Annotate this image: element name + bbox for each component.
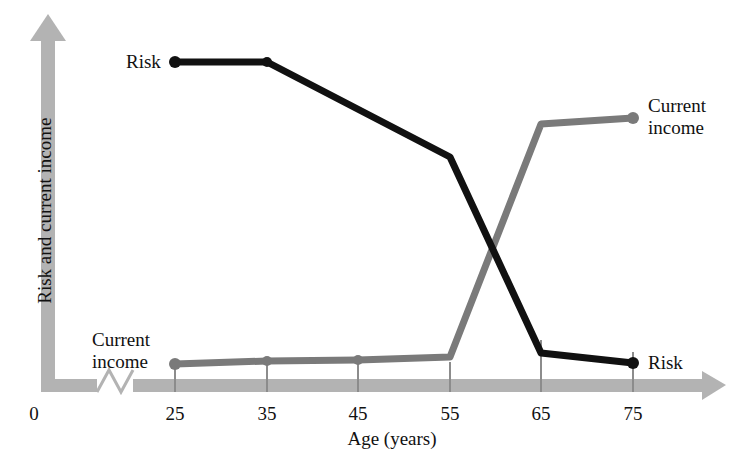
x-tick-label-65: 65 [521, 403, 561, 424]
series-label-current-income-right: Current income [648, 95, 744, 138]
series-label-current-income-left: Current income [92, 329, 188, 372]
series-label-risk-left: Risk [126, 51, 161, 72]
x-tick-label-45: 45 [338, 403, 378, 424]
series-label-risk-right: Risk [648, 352, 683, 373]
x-tick-label-35: 35 [247, 403, 287, 424]
x-axis-title: Age (years) [272, 428, 512, 449]
x-tick-label-25: 25 [155, 403, 195, 424]
x-axis-arrow [41, 371, 726, 400]
series-current-income [169, 112, 639, 370]
chart-plot-area [0, 0, 744, 463]
x-tick-label-55: 55 [430, 403, 470, 424]
x-tick-label-75: 75 [613, 403, 653, 424]
chart-container: Risk and current income Age (years) 0 25… [0, 0, 744, 463]
x-axis-origin-label: 0 [14, 403, 54, 424]
series-risk [169, 56, 639, 369]
y-axis-title: Risk and current income [34, 96, 55, 326]
axis-break-mark [97, 370, 133, 392]
